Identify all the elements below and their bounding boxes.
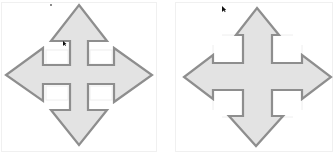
left-four-way-arrow (6, 5, 152, 145)
notch-guide (46, 50, 68, 64)
notch-guide (90, 86, 112, 100)
stray-dot (50, 4, 52, 6)
notch-guide (46, 86, 68, 100)
mouse-pointer-icon (222, 6, 226, 12)
left-arrow-shape[interactable] (6, 5, 152, 145)
right-four-way-arrow (184, 8, 331, 146)
diagram-canvas (0, 0, 335, 155)
right-arrow-shape[interactable] (184, 8, 331, 146)
notch-guide (90, 50, 112, 64)
